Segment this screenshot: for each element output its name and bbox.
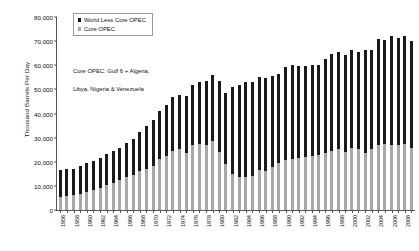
bar-segment-world-less-core-opec — [72, 169, 75, 196]
bar-stack — [185, 96, 188, 210]
bar-segment-world-less-core-opec — [158, 111, 161, 160]
x-axis-tick-mark — [93, 210, 94, 213]
bar-stack — [344, 55, 347, 210]
bar-stack — [171, 97, 174, 210]
bar-column — [170, 17, 177, 210]
bar-stack — [158, 111, 161, 210]
x-axis-tick: 2008 — [402, 210, 409, 251]
bar-stack — [390, 36, 393, 210]
bar-segment-world-less-core-opec — [118, 148, 121, 181]
bar-column — [243, 17, 250, 210]
bar-column — [375, 17, 382, 210]
x-axis-tick — [90, 210, 97, 251]
x-axis-tick: 1964 — [110, 210, 117, 251]
x-axis-tick-mark — [392, 210, 393, 213]
bar-segment-world-less-core-opec — [191, 85, 194, 145]
x-axis-tick-mark — [219, 210, 220, 213]
bar-segment-core-opec — [231, 174, 234, 210]
bar-stack — [65, 169, 68, 210]
bar-segment-core-opec — [105, 185, 108, 210]
bar-segment-world-less-core-opec — [211, 75, 214, 141]
bar-segment-core-opec — [350, 148, 353, 210]
bar-segment-world-less-core-opec — [410, 41, 413, 148]
bar-segment-core-opec — [99, 188, 102, 210]
bar-segment-world-less-core-opec — [304, 66, 307, 157]
bar-segment-core-opec — [304, 157, 307, 210]
bar-column — [322, 17, 329, 210]
x-axis-tick-mark — [113, 210, 114, 213]
x-axis-tick-mark — [312, 210, 313, 213]
bar-column — [203, 17, 210, 210]
bar-segment-world-less-core-opec — [145, 126, 148, 169]
x-axis-tick-mark — [160, 210, 161, 213]
bar-column — [103, 17, 110, 210]
legend-swatch-core-opec — [78, 27, 81, 30]
x-axis-tick-mark — [226, 210, 227, 213]
x-axis-tick-mark — [411, 210, 412, 213]
x-axis-tick: 1958 — [70, 210, 77, 251]
bar-segment-core-opec — [370, 149, 373, 210]
bar-segment-world-less-core-opec — [383, 40, 386, 144]
bar-stack — [370, 50, 373, 210]
bar-segment-world-less-core-opec — [105, 154, 108, 185]
x-axis-tick: 1966 — [123, 210, 130, 251]
bar-column — [137, 17, 144, 210]
bar-stack — [191, 85, 194, 210]
bar-segment-core-opec — [264, 171, 267, 210]
x-axis-ticks: 1956195819601962196419661968197019721974… — [57, 210, 415, 251]
bar-segment-world-less-core-opec — [337, 52, 340, 149]
bar-stack — [125, 143, 128, 210]
bar-segment-core-opec — [271, 167, 274, 210]
bar-segment-world-less-core-opec — [311, 65, 314, 157]
x-axis-tick: 1998 — [335, 210, 342, 251]
bar-stack — [271, 76, 274, 210]
chart-container: Thousand Barrels Per Day 80,00070,00060,… — [0, 0, 419, 251]
chart-legend: World Less Core OPEC Core OPEC — [73, 13, 153, 36]
bar-segment-world-less-core-opec — [390, 36, 393, 145]
x-axis-tick — [276, 210, 283, 251]
x-axis-tick-mark — [239, 210, 240, 213]
bar-segment-world-less-core-opec — [324, 59, 327, 153]
bar-segment-world-less-core-opec — [165, 105, 168, 157]
x-axis-tick-mark — [266, 210, 267, 213]
bar-segment-core-opec — [330, 151, 333, 210]
x-axis-tick-mark — [180, 210, 181, 213]
bar-stack — [350, 50, 353, 210]
legend-label-core-opec: Core OPEC — [84, 26, 115, 32]
x-axis-tick-mark — [325, 210, 326, 213]
bar-stack — [304, 66, 307, 210]
bar-segment-world-less-core-opec — [238, 85, 241, 177]
bar-stack — [85, 163, 88, 210]
bar-column — [163, 17, 170, 210]
x-axis-tick: 1984 — [243, 210, 250, 251]
x-axis-tick-mark — [252, 210, 253, 213]
x-axis-tick: 2002 — [362, 210, 369, 251]
bar-segment-world-less-core-opec — [185, 96, 188, 153]
x-axis-tick — [382, 210, 389, 251]
bar-stack — [165, 105, 168, 210]
bar-segment-core-opec — [72, 195, 75, 210]
bar-stack — [311, 65, 314, 210]
bar-stack — [317, 65, 320, 210]
bar-column — [342, 17, 349, 210]
bar-segment-world-less-core-opec — [271, 76, 274, 167]
bar-column — [196, 17, 203, 210]
x-axis-tick: 2000 — [349, 210, 356, 251]
bar-column — [123, 17, 130, 210]
bar-stack — [397, 38, 400, 210]
x-axis-tick — [315, 210, 322, 251]
bar-stack — [145, 126, 148, 210]
bar-stack — [105, 154, 108, 210]
bar-segment-world-less-core-opec — [350, 50, 353, 148]
bar-segment-world-less-core-opec — [377, 39, 380, 145]
x-axis-tick — [103, 210, 110, 251]
bar-segment-world-less-core-opec — [370, 50, 373, 149]
x-axis-tick-mark — [120, 210, 121, 213]
bar-segment-core-opec — [251, 176, 254, 210]
x-axis-tick — [143, 210, 150, 251]
bar-column — [362, 17, 369, 210]
x-axis-tick-mark — [140, 210, 141, 213]
x-axis-tick — [408, 210, 415, 251]
bar-segment-core-opec — [211, 141, 214, 210]
bar-column — [190, 17, 197, 210]
